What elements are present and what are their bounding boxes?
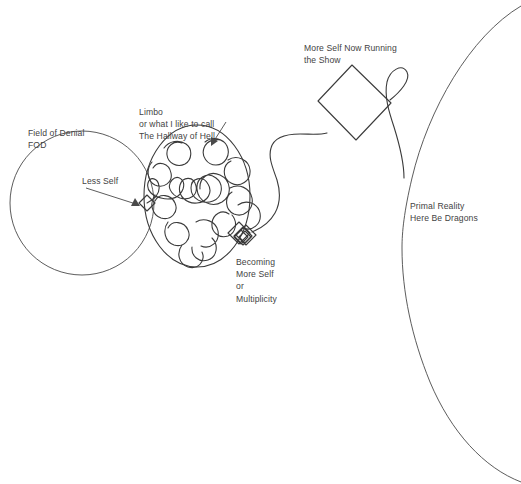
becoming-to-square-path <box>252 133 327 232</box>
label-less-self: Less Self <box>82 175 118 187</box>
label-limbo: Limbo or what I like to call The Hallway… <box>139 106 215 143</box>
label-field-of-denial: Field of Denial FOD <box>28 127 84 151</box>
label-primal-reality: Primal Reality Here Be Dragons <box>410 200 478 224</box>
label-becoming-more-self: Becoming More Self or Multiplicity <box>236 256 277 305</box>
label-more-self-now-running-the-show: More Self Now Running the Show <box>304 42 397 66</box>
primal-reality-circle <box>402 6 521 482</box>
diagram-canvas <box>0 0 521 484</box>
limbo-scribble-path <box>147 139 260 268</box>
more-self-now-running-square <box>318 65 391 140</box>
less-self-pointer-arrow <box>86 188 140 206</box>
square-to-primal-reality-path <box>386 68 408 178</box>
